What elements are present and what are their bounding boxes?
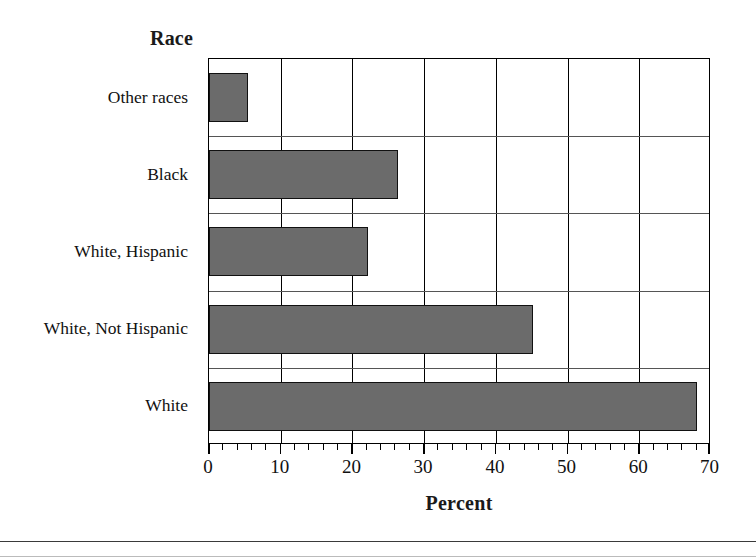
bar-white[interactable]	[209, 382, 697, 431]
tick-minor-62	[653, 444, 654, 450]
tick-major-40	[495, 444, 497, 454]
tick-major-50	[567, 444, 569, 454]
x-tick-label-30: 30	[414, 456, 433, 478]
tick-minor-58	[624, 444, 625, 450]
tick-minor-14	[308, 444, 309, 450]
y-axis-label-white: White	[0, 395, 188, 416]
tick-minor-68	[696, 444, 697, 450]
bar-white-not-hispanic[interactable]	[209, 305, 533, 354]
tick-minor-42	[509, 444, 510, 450]
bar-other-races[interactable]	[209, 73, 248, 122]
bar-white-hispanic[interactable]	[209, 227, 368, 276]
x-tick-label-0: 0	[203, 456, 213, 478]
y-axis-label-white-hispanic: White, Hispanic	[0, 241, 188, 262]
tick-minor-38	[481, 444, 482, 450]
x-tick-label-10: 10	[270, 456, 289, 478]
chart-title: Race	[150, 27, 193, 50]
tick-minor-4	[237, 444, 238, 450]
tick-minor-6	[251, 444, 252, 450]
tick-minor-52	[581, 444, 582, 450]
tick-minor-66	[681, 444, 682, 450]
tick-minor-46	[538, 444, 539, 450]
x-tick-label-20: 20	[342, 456, 361, 478]
tick-minor-18	[337, 444, 338, 450]
y-axis-label-other-races: Other races	[0, 86, 188, 107]
gridline-horizontal-1	[209, 136, 709, 137]
x-tick-label-70: 70	[700, 456, 719, 478]
gridline-horizontal-4	[209, 368, 709, 369]
x-tick-label-60: 60	[629, 456, 648, 478]
tick-minor-54	[595, 444, 596, 450]
tick-minor-28	[409, 444, 410, 450]
x-axis-tick-labels: 0 10 20 30 40 50 60 70	[208, 456, 710, 482]
tick-minor-48	[552, 444, 553, 450]
tick-major-60	[638, 444, 640, 454]
tick-minor-8	[265, 444, 266, 450]
gridline-horizontal-3	[209, 291, 709, 292]
x-tick-label-50: 50	[557, 456, 576, 478]
tick-minor-26	[394, 444, 395, 450]
footer-divider-secondary	[0, 556, 756, 557]
gridline-horizontal-2	[209, 213, 709, 214]
x-tick-label-40: 40	[485, 456, 504, 478]
y-axis-labels: Other races Black White, Hispanic White,…	[0, 58, 198, 444]
tick-major-70	[708, 444, 710, 454]
tick-minor-16	[323, 444, 324, 450]
bar-chart-figure: Race Other races Black White, Hispanic W…	[0, 0, 756, 559]
x-axis-ticks	[208, 444, 710, 454]
tick-major-30	[423, 444, 425, 454]
x-axis-title: Percent	[208, 492, 710, 515]
bar-black[interactable]	[209, 150, 398, 199]
footer-divider	[0, 541, 756, 542]
tick-minor-44	[524, 444, 525, 450]
tick-major-0	[208, 444, 210, 454]
tick-minor-22	[366, 444, 367, 450]
tick-minor-32	[437, 444, 438, 450]
tick-major-10	[280, 444, 282, 454]
tick-minor-24	[380, 444, 381, 450]
tick-minor-2	[222, 444, 223, 450]
tick-major-20	[351, 444, 353, 454]
tick-minor-36	[466, 444, 467, 450]
tick-minor-34	[452, 444, 453, 450]
y-axis-label-black: Black	[0, 163, 188, 184]
y-axis-label-white-not-hispanic: White, Not Hispanic	[0, 318, 188, 339]
tick-minor-12	[294, 444, 295, 450]
tick-minor-56	[610, 444, 611, 450]
plot-area	[208, 58, 710, 444]
tick-minor-64	[667, 444, 668, 450]
